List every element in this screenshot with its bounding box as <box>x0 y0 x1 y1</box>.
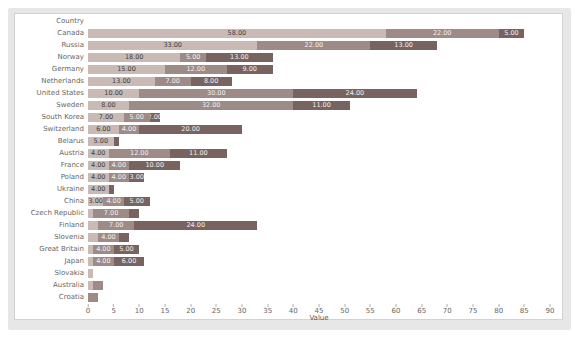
chart-row: South Korea7.005.002.00 <box>15 111 562 123</box>
bar-segment[interactable]: 11.00 <box>170 149 226 158</box>
bar-segment[interactable]: 6.00 <box>114 257 145 266</box>
bar-segment[interactable]: 7.00 <box>93 209 129 218</box>
bar-stack: 4.006.00 <box>88 257 144 266</box>
bar-stack: 4.005.00 <box>88 245 139 254</box>
chart-row: Poland4.004.003.00 <box>15 171 562 183</box>
bar-segment[interactable]: 4.00 <box>119 125 140 134</box>
chart-row: Netherlands13.007.008.00 <box>15 75 562 87</box>
category-label: Netherlands <box>15 75 88 87</box>
category-label: Norway <box>15 51 88 63</box>
bar-segment[interactable]: 18.00 <box>88 53 180 62</box>
category-label: Sweden <box>15 99 88 111</box>
bar-segment[interactable]: 2.00 <box>150 113 160 122</box>
category-label: France <box>15 159 88 171</box>
bar-segment[interactable]: 4.00 <box>109 161 130 170</box>
bar-segment[interactable]: 4.00 <box>93 257 114 266</box>
bar-stack <box>88 281 103 290</box>
category-label: Czech Republic <box>15 207 88 219</box>
bar-stack: 7.00 <box>88 209 139 218</box>
bar-segment[interactable]: 24.00 <box>293 89 416 98</box>
bar-segment[interactable]: 4.00 <box>109 173 130 182</box>
bar-segment[interactable]: 10.00 <box>129 161 180 170</box>
bar-segment[interactable] <box>88 269 93 278</box>
bar-segment[interactable]: 6.00 <box>88 125 119 134</box>
bar-segment[interactable]: 5.00 <box>88 137 114 146</box>
category-label: Switzerland <box>15 123 88 135</box>
bar-segment[interactable]: 4.00 <box>88 161 109 170</box>
chart-row: Slovakia <box>15 267 562 279</box>
bar-segment[interactable]: 4.00 <box>93 245 114 254</box>
category-label: Slovakia <box>15 267 88 279</box>
bar-segment[interactable]: 5.00 <box>124 113 150 122</box>
bar-segment[interactable]: 3.00 <box>129 173 144 182</box>
bar-segment[interactable]: 32.00 <box>129 101 293 110</box>
bar-segment[interactable] <box>129 209 139 218</box>
bar-stack: 4.004.0010.00 <box>88 161 180 170</box>
bar-segment[interactable]: 4.00 <box>98 233 119 242</box>
bar-segment[interactable]: 5.00 <box>114 245 140 254</box>
category-label: Finland <box>15 219 88 231</box>
bar-segment[interactable]: 13.00 <box>206 53 273 62</box>
bar-segment[interactable]: 13.00 <box>370 41 437 50</box>
chart-row: Slovenia4.00 <box>15 231 562 243</box>
bar-segment[interactable] <box>93 281 103 290</box>
bar-segment[interactable] <box>119 233 129 242</box>
chart-row: Canada58.0022.005.00 <box>15 27 562 39</box>
bar-segment[interactable] <box>88 233 98 242</box>
bar-segment[interactable]: 5.00 <box>180 53 206 62</box>
chart-row: Austria4.0012.0011.00 <box>15 147 562 159</box>
bar-segment[interactable]: 11.00 <box>293 101 349 110</box>
bar-segment[interactable]: 7.00 <box>155 77 191 86</box>
bar-segment[interactable]: 30.00 <box>139 89 293 98</box>
chart-panel: CountryCanada58.0022.005.00Russia33.0022… <box>14 13 563 320</box>
category-label: Germany <box>15 63 88 75</box>
bar-segment[interactable]: 10.00 <box>88 89 139 98</box>
category-label: Croatia <box>15 291 88 303</box>
bar-segment[interactable]: 7.00 <box>88 113 124 122</box>
bar-segment[interactable]: 8.00 <box>88 101 129 110</box>
bar-segment[interactable]: 20.00 <box>139 125 242 134</box>
bar-segment[interactable]: 22.00 <box>386 29 499 38</box>
bar-stack: 4.00 <box>88 233 129 242</box>
bar-segment[interactable]: 3.00 <box>88 197 103 206</box>
chart-row: Ukraine4.00 <box>15 183 562 195</box>
bar-segment[interactable]: 4.00 <box>88 173 109 182</box>
category-label: Australia <box>15 279 88 291</box>
bar-segment[interactable]: 4.00 <box>88 149 109 158</box>
chart-row: Switzerland6.004.0020.00 <box>15 123 562 135</box>
bar-segment[interactable] <box>114 137 119 146</box>
category-label: Poland <box>15 171 88 183</box>
category-label: Austria <box>15 147 88 159</box>
bar-segment[interactable]: 13.00 <box>88 77 155 86</box>
bar-segment[interactable] <box>88 293 98 302</box>
bar-segment[interactable]: 22.00 <box>257 41 370 50</box>
bar-segment[interactable]: 9.00 <box>227 65 273 74</box>
chart-row: Finland7.0024.00 <box>15 219 562 231</box>
bar-segment[interactable] <box>109 185 114 194</box>
y-axis-title: Country <box>15 15 88 27</box>
chart-row: Russia33.0022.0013.00 <box>15 39 562 51</box>
bar-stack: 6.004.0020.00 <box>88 125 242 134</box>
category-label: Japan <box>15 255 88 267</box>
bar-segment[interactable]: 33.00 <box>88 41 257 50</box>
bar-segment[interactable]: 4.00 <box>88 185 109 194</box>
bar-segment[interactable]: 8.00 <box>191 77 232 86</box>
bar-segment[interactable]: 12.00 <box>109 149 171 158</box>
bar-segment[interactable]: 7.00 <box>98 221 134 230</box>
bar-segment[interactable]: 5.00 <box>124 197 150 206</box>
bar-segment[interactable]: 5.00 <box>499 29 525 38</box>
bar-segment[interactable]: 58.00 <box>88 29 386 38</box>
category-label: Russia <box>15 39 88 51</box>
bar-segment[interactable]: 24.00 <box>134 221 257 230</box>
chart-row: Croatia <box>15 291 562 303</box>
bar-segment[interactable] <box>88 221 98 230</box>
bar-segment[interactable]: 15.00 <box>88 65 165 74</box>
bar-segment[interactable]: 4.00 <box>103 197 124 206</box>
bar-stack: 3.004.005.00 <box>88 197 150 206</box>
chart-row: Belarus5.00 <box>15 135 562 147</box>
bar-stack: 7.005.002.00 <box>88 113 160 122</box>
chart-row: Norway18.005.0013.00 <box>15 51 562 63</box>
chart-row: China3.004.005.00 <box>15 195 562 207</box>
bar-segment[interactable]: 12.00 <box>165 65 227 74</box>
chart-row: Great Britain4.005.00 <box>15 243 562 255</box>
